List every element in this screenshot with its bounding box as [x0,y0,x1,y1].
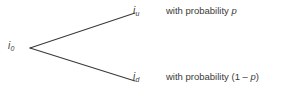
upper-prob-prefix: with probability [166,5,231,16]
node-label-root: i0 [8,41,14,51]
upper-branch-line [30,13,135,48]
node-root-symbol: i [8,40,10,51]
node-down-subscript: d [136,76,140,83]
upper-prob-variable: p [231,5,236,16]
binomial-tree-diagram: i0 iu id with probability p with probabi… [0,0,282,94]
lower-prob-prefix: with probability (1 – [166,71,250,82]
lower-branch-probability-label: with probability (1 – p) [166,72,259,82]
node-label-down: id [133,72,139,82]
node-up-subscript: u [136,10,140,17]
lower-branch-line [30,48,135,81]
node-up-symbol: i [133,5,135,16]
lower-prob-suffix: ) [256,71,259,82]
upper-branch-probability-label: with probability p [166,6,237,16]
node-label-up: iu [133,6,139,16]
node-root-subscript: 0 [11,45,15,52]
node-down-symbol: i [133,71,135,82]
